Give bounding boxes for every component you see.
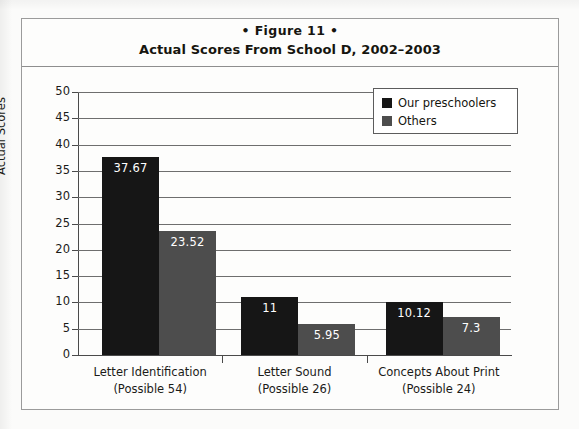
title-block: • Figure 11 • Actual Scores From School … [21,21,559,60]
legend-swatch-icon [382,98,392,108]
legend-item: Our preschoolers [382,94,517,112]
bar-value-label: 5.95 [298,328,355,342]
figure-page: • Figure 11 • Actual Scores From School … [0,0,579,429]
bar: 10.12 [386,302,443,355]
bar: 23.52 [159,231,216,355]
legend-item-label: Our preschoolers [398,97,496,110]
x-axis-tick [367,356,368,363]
bar: 11 [241,297,298,355]
legend-item: Others [382,112,517,130]
category-name: Concepts About Print [367,364,511,381]
bar-value-label: 37.67 [102,161,159,175]
x-axis-line [78,355,512,356]
y-axis-tick-label: 15 [36,270,70,281]
y-axis-tick-label: 25 [36,218,70,229]
y-axis-tick-label: 0 [36,349,70,360]
y-axis-tick-label: 50 [36,86,70,97]
legend-item-label: Others [398,115,437,128]
category-name: Letter Identification [78,364,222,381]
x-axis-tick [222,356,223,363]
bar-value-label: 7.3 [443,321,500,335]
y-axis-tick-label: 35 [36,165,70,176]
category-possible: (Possible 54) [78,381,222,398]
legend-swatch-icon [382,116,392,126]
y-axis-tick-label: 10 [36,296,70,307]
figure-number: • Figure 11 • [21,21,559,40]
gridline [78,145,511,146]
bar: 37.67 [102,157,159,355]
bar: 5.95 [298,324,355,355]
y-axis-tick-label: 45 [36,112,70,123]
bar-value-label: 11 [241,301,298,315]
page-title: Actual Scores From School D, 2002–2003 [21,40,559,60]
title-divider [22,66,558,67]
legend: Our preschoolers Others [373,88,518,134]
category-name: Letter Sound [222,364,366,381]
x-axis-category-label: Letter Identification(Possible 54) [78,364,222,398]
y-axis-tick-label: 20 [36,244,70,255]
category-possible: (Possible 24) [367,381,511,398]
bar: 7.3 [443,317,500,355]
y-axis-tick-label: 40 [36,139,70,150]
bar-value-label: 10.12 [386,306,443,320]
category-possible: (Possible 26) [222,381,366,398]
y-axis-tick-label: 5 [36,323,70,334]
x-axis-category-labels: Letter Identification(Possible 54)Letter… [78,364,512,408]
x-axis-category-label: Concepts About Print(Possible 24) [367,364,511,398]
bar-value-label: 23.52 [159,235,216,249]
y-axis-tick-label: 30 [36,191,70,202]
y-axis-title: Actual Scores [0,55,8,175]
x-axis-category-label: Letter Sound(Possible 26) [222,364,366,398]
